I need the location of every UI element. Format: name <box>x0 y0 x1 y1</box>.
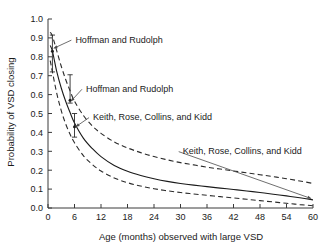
y-tick-label: 0.7 <box>30 71 43 81</box>
annotation-label: Hoffman and Rudolph <box>75 35 162 45</box>
y-tick-label: 0.8 <box>30 52 43 62</box>
x-tick-label: 0 <box>45 212 50 222</box>
annotation-label: Hoffman and Rudolph <box>86 84 173 94</box>
x-tick-label: 48 <box>255 212 265 222</box>
y-tick-label: 0.4 <box>30 128 43 138</box>
figure-container: 06121824303642485460 0.00.10.20.30.40.50… <box>0 0 331 248</box>
x-axis-title: Age (months) observed with large VSD <box>99 231 263 242</box>
annotation-label: Keith, Rose, Collins, and Kidd <box>93 112 212 122</box>
y-tick-label: 0.0 <box>30 203 43 213</box>
x-tick-label: 6 <box>72 212 77 222</box>
y-tick-label: 0.1 <box>30 184 43 194</box>
x-tick-label: 24 <box>149 212 159 222</box>
chart-background <box>0 0 331 248</box>
y-tick-label: 0.9 <box>30 33 43 43</box>
x-tick-label: 18 <box>122 212 132 222</box>
y-axis-title: Probability of VSD closing <box>5 57 16 166</box>
x-tick-label: 54 <box>281 212 291 222</box>
x-tick-label: 36 <box>202 212 212 222</box>
y-tick-label: 0.2 <box>30 166 43 176</box>
y-tick-label: 0.5 <box>30 109 43 119</box>
y-tick-label: 0.3 <box>30 147 43 157</box>
x-tick-label: 12 <box>96 212 106 222</box>
x-tick-label: 42 <box>228 212 238 222</box>
error-bar-point <box>73 125 76 128</box>
x-tick-label: 60 <box>308 212 318 222</box>
y-tick-label: 1.0 <box>30 14 43 24</box>
x-tick-label: 30 <box>175 212 185 222</box>
annotation-label: Keith, Rose, Collins, and Kidd <box>183 146 302 156</box>
vsd-closing-probability-chart: 06121824303642485460 0.00.10.20.30.40.50… <box>0 0 331 248</box>
y-tick-label: 0.6 <box>30 90 43 100</box>
error-bar-point <box>51 50 54 53</box>
